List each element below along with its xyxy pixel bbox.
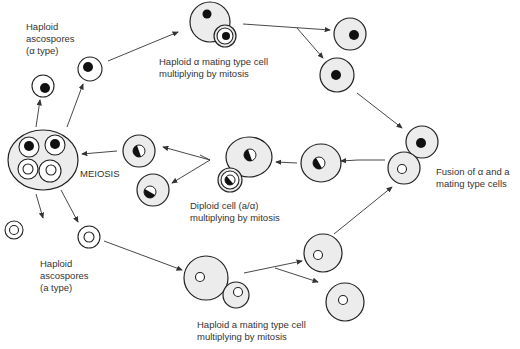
label-alpha-mitosis: Haploid α mating type cell multiplying b… [159,56,268,80]
ascus-icon [8,130,78,190]
label-diploid: Diploid cell (a/α) multiplying by mitosi… [190,200,280,224]
a-ascospore-icon [5,221,23,239]
a-ascospore-icon [78,226,100,248]
alpha-cell-icon [320,58,354,92]
label-alpha-ascospores: Haploid ascospores (α type) [26,21,75,57]
diploid-budding-cell-icon [218,137,272,192]
fusion-cells-icon [388,126,438,184]
a-budding-cell-icon [184,256,249,308]
label-a-mitosis: Haploid a mating type cell multiplying b… [197,319,306,343]
alpha-ascospore-icon [32,75,54,97]
diploid-cell-icon [137,174,169,206]
alpha-ascospore-icon [78,57,102,81]
label-meiosis: MEIOSIS [80,168,120,180]
yeast-life-cycle-diagram: Haploid ascospores (α type) Haploid α ma… [0,0,520,349]
alpha-budding-cell-icon [190,2,236,47]
label-fusion: Fusion of α and a mating type cells [436,166,510,190]
diploid-cell-icon [301,144,341,182]
alpha-cell-icon [334,18,366,50]
a-cell-icon [326,283,364,321]
diploid-cell-icon [123,135,155,167]
label-a-ascospores: Haploid ascospores (a type) [40,258,89,294]
a-cell-icon [304,234,342,272]
